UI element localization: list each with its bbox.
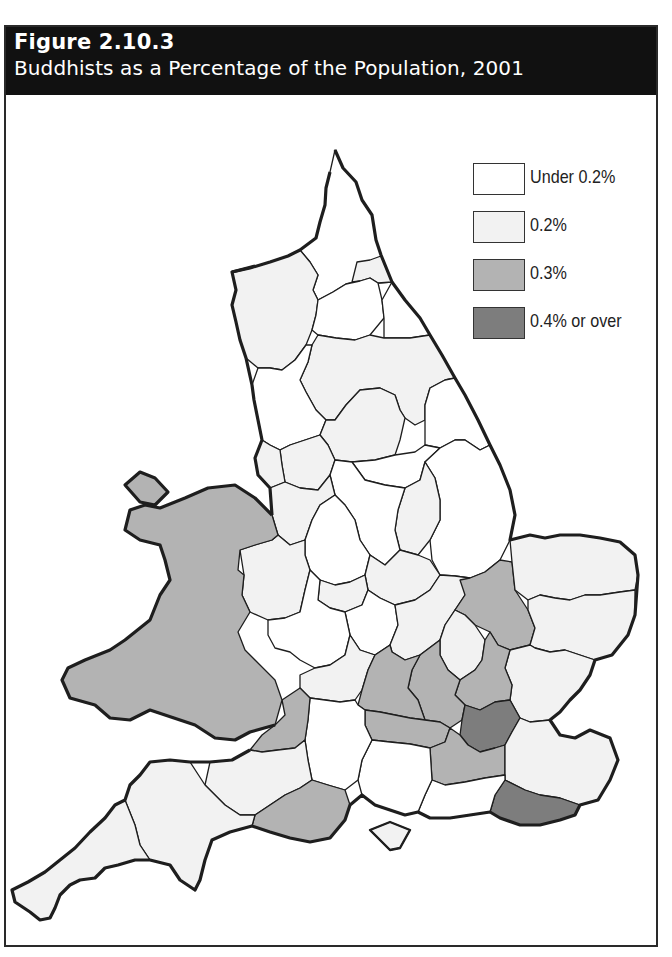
legend-swatch [473,163,525,195]
legend-item-0-3: 0.3% [468,256,658,292]
area-cornwall [12,800,150,920]
area-east-riding [425,378,490,450]
legend-item-under-0-2: Under 0.2% [468,160,658,196]
area-tees [382,282,430,338]
area-suffolk [528,590,635,660]
legend-label: 0.4% or over [530,310,622,332]
legend-swatch [473,307,525,339]
legend-label: 0.3% [530,262,567,284]
area-shropshire [240,535,310,620]
legend-item-0-2: 0.2% [468,208,658,244]
area-hampshire [358,740,432,815]
legend-label: 0.2% [530,214,567,236]
england-wales-map [0,0,672,957]
legend-swatch [473,211,525,243]
legend-item-0-4-over: 0.4% or over [468,304,658,340]
area-wales [62,485,282,740]
legend-swatch [473,259,525,291]
area-norfolk [510,535,638,600]
area-essex [505,645,595,722]
legend-label: Under 0.2% [530,166,615,188]
